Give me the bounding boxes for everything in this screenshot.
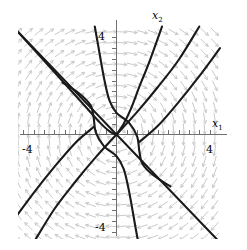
x2-axis-label-sub: 2 — [158, 16, 162, 24]
x2-axis-label: x2 — [152, 10, 163, 24]
phase-portrait-figure: x2 x1 4 -4 -4 4 — [0, 0, 247, 250]
x1-axis-label: x1 — [212, 118, 223, 132]
x1-tick-label-4: 4 — [206, 144, 213, 155]
phase-portrait-canvas — [0, 0, 247, 250]
x1-tick-label-minus4: -4 — [22, 144, 33, 155]
x2-tick-label-4: 4 — [98, 31, 105, 42]
x1-axis-label-sub: 1 — [218, 124, 222, 132]
x2-tick-label-minus4: -4 — [95, 222, 106, 233]
